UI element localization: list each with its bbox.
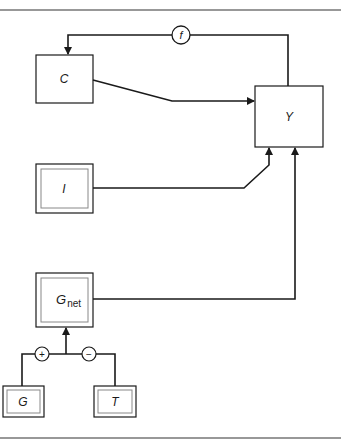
edge-gnet-to-y bbox=[93, 148, 295, 299]
node-gnet-label: G bbox=[56, 292, 66, 307]
node-gnet: Gnet bbox=[36, 273, 93, 327]
node-y: Y bbox=[255, 86, 323, 147]
node-c: C bbox=[36, 55, 93, 103]
node-y-label: Y bbox=[285, 110, 294, 124]
node-c-label: C bbox=[60, 72, 69, 86]
node-gnet-subscript: net bbox=[67, 298, 81, 309]
node-g: G bbox=[3, 386, 44, 417]
operator-f: f bbox=[172, 26, 190, 44]
node-g-label: G bbox=[18, 395, 27, 409]
flow-diagram: f C Y I Gnet + − bbox=[0, 0, 341, 442]
node-i: I bbox=[36, 164, 93, 213]
operator-minus-label: − bbox=[86, 349, 92, 360]
edge-i-to-y bbox=[93, 148, 269, 188]
operator-plus: + bbox=[35, 347, 49, 361]
node-t: T bbox=[94, 386, 136, 417]
operator-minus: − bbox=[82, 347, 96, 361]
edge-c-to-y bbox=[93, 80, 254, 101]
operator-plus-label: + bbox=[39, 349, 45, 360]
